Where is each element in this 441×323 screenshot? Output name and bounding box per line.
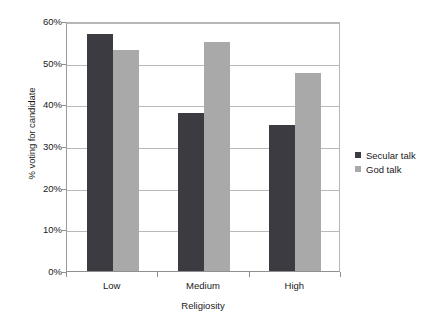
legend-label: God talk xyxy=(366,164,401,175)
x-tick-mark xyxy=(66,272,67,277)
bar-low-secular-talk xyxy=(87,34,113,272)
y-tick-label: 50% xyxy=(22,59,62,69)
bar-chart: % voting for candidate 0%10%20%30%40%50%… xyxy=(0,0,441,323)
legend-swatch-icon xyxy=(355,166,361,172)
x-tick-label-low: Low xyxy=(67,280,157,291)
gridline xyxy=(67,23,339,24)
y-tick-label: 60% xyxy=(22,17,62,27)
bar-medium-god-talk xyxy=(204,42,230,271)
bar-high-secular-talk xyxy=(269,125,295,271)
x-axis-title: Religiosity xyxy=(66,300,340,311)
y-tick-label: 20% xyxy=(22,184,62,194)
bar-low-god-talk xyxy=(113,50,139,271)
y-tick-mark xyxy=(61,64,66,65)
y-tick-label: 40% xyxy=(22,100,62,110)
legend-label: Secular talk xyxy=(366,150,416,161)
y-tick-label: 30% xyxy=(22,142,62,152)
bar-high-god-talk xyxy=(295,73,321,271)
bar-medium-secular-talk xyxy=(178,113,204,271)
legend-item-god-talk: God talk xyxy=(355,162,416,176)
plot-area xyxy=(66,22,340,272)
y-tick-mark xyxy=(61,189,66,190)
legend-item-secular-talk: Secular talk xyxy=(355,148,416,162)
y-tick-label: 10% xyxy=(22,225,62,235)
x-tick-mark xyxy=(157,272,158,277)
x-tick-mark xyxy=(340,272,341,277)
chart-legend: Secular talk God talk xyxy=(355,148,416,176)
y-tick-mark xyxy=(61,230,66,231)
y-tick-mark xyxy=(61,105,66,106)
x-tick-mark xyxy=(249,272,250,277)
y-tick-label: 0% xyxy=(22,267,62,277)
x-tick-label-medium: Medium xyxy=(158,280,248,291)
x-tick-label-high: High xyxy=(249,280,339,291)
legend-swatch-icon xyxy=(355,152,361,158)
y-tick-mark xyxy=(61,22,66,23)
y-tick-mark xyxy=(61,147,66,148)
